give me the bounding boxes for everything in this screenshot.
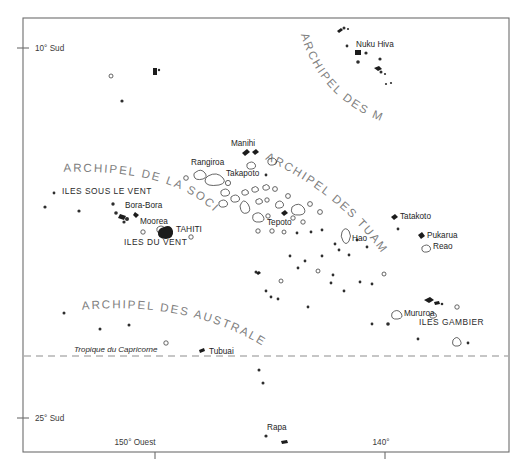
- archipel-label-tuamotu: ARCHIPEL DES TUAMOTU: [0, 0, 391, 256]
- label-tepoto: Tepoto: [267, 218, 292, 227]
- place-labels: Nuku Hiva Rangiroa Manihi Takapoto Tepot…: [125, 40, 458, 432]
- islands-marquises: [337, 27, 392, 86]
- polynesia-map: 10° Sud 25° Sud 150° Ouest 140° Tropique…: [0, 0, 527, 471]
- islands-northwest: [109, 68, 160, 103]
- label-tatakoto: Tatakoto: [400, 212, 431, 221]
- label-pukarua: Pukarua: [427, 231, 458, 240]
- label-hao: Hao: [352, 234, 367, 243]
- label-bora-bora: Bora-Bora: [125, 201, 163, 210]
- latitude-ticks: 10° Sud 25° Sud: [17, 44, 65, 423]
- label-moorea: Moorea: [140, 217, 168, 226]
- archipel-label-societe: ARCHIPEL DE LA SOCIETE: [0, 0, 223, 214]
- label-tubuai: Tubuai: [209, 347, 234, 356]
- tropic-of-capricorn-label: Tropique du Capricorne: [74, 345, 158, 354]
- label-rangiroa: Rangiroa: [191, 158, 225, 167]
- archipel-tuamotu-text: ARCHIPEL DES TUAMOTU: [0, 0, 391, 256]
- label-mururoa: Mururoa: [404, 309, 435, 318]
- longitude-ticks: 150° Ouest 140°: [114, 438, 389, 459]
- label-rapa: Rapa: [267, 423, 287, 432]
- archipel-societe-text: ARCHIPEL DE LA SOCIETE: [0, 0, 223, 214]
- label-iles-du-vent: ILES DU VENT: [124, 237, 187, 247]
- label-tahiti: TAHITI: [176, 224, 202, 234]
- label-manihi: Manihi: [231, 139, 255, 148]
- label-reao: Reao: [433, 242, 453, 251]
- label-takapoto: Takapoto: [226, 169, 260, 178]
- map-container: 10° Sud 25° Sud 150° Ouest 140° Tropique…: [0, 0, 527, 471]
- islands-rapa: [264, 434, 288, 444]
- axis-label-lon-1: 140°: [373, 438, 390, 447]
- label-iles-sous-le-vent: ILES SOUS LE VENT: [62, 186, 152, 196]
- label-nuku-hiva: Nuku Hiva: [356, 40, 394, 49]
- axis-label-lon-0: 150° Ouest: [114, 438, 156, 447]
- axis-label-lat-0: 10° Sud: [35, 44, 65, 53]
- label-iles-gambier: ILES GAMBIER: [419, 317, 484, 327]
- axis-label-lat-1: 25° Sud: [35, 414, 65, 423]
